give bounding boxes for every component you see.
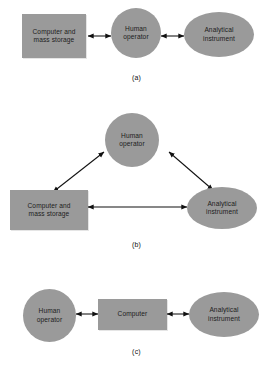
panel-a: Computer and mass storage Human operator… (0, 0, 273, 95)
node-label: Computer and mass storage (28, 202, 71, 218)
panel-caption-c: (c) (0, 348, 273, 355)
node-label: Human operator (123, 25, 148, 41)
node-label: Human operator (37, 307, 62, 323)
panel-caption-b: (b) (0, 241, 273, 248)
node-label: Analytical instrument (203, 26, 235, 42)
node-human-operator[interactable]: Human operator (105, 113, 159, 167)
arrow-operator-to-instrument (169, 152, 213, 190)
node-label: Computer (118, 310, 148, 318)
node-analytical-instrument[interactable]: Analytical instrument (184, 12, 254, 57)
node-computer[interactable]: Computer (98, 299, 167, 330)
node-analytical-instrument[interactable]: Analytical instrument (187, 187, 257, 229)
figure-root: Computer and mass storage Human operator… (0, 0, 273, 379)
node-computer-and-mass-storage[interactable]: Computer and mass storage (10, 190, 88, 230)
panel-caption-a: (a) (0, 74, 273, 81)
node-label: Analytical instrument (208, 306, 240, 322)
node-computer-and-mass-storage[interactable]: Computer and mass storage (22, 14, 86, 58)
node-label: Analytical instrument (206, 200, 238, 216)
node-label: Human operator (119, 132, 144, 148)
node-human-operator[interactable]: Human operator (111, 8, 161, 58)
panel-b: Human operator Computer and mass storage… (0, 95, 273, 260)
node-label: Computer and mass storage (33, 28, 76, 44)
panel-c: Human operator Computer Analytical instr… (0, 260, 273, 379)
node-human-operator[interactable]: Human operator (23, 289, 76, 342)
arrow-computer-to-operator (53, 152, 104, 192)
node-analytical-instrument[interactable]: Analytical instrument (189, 292, 259, 337)
